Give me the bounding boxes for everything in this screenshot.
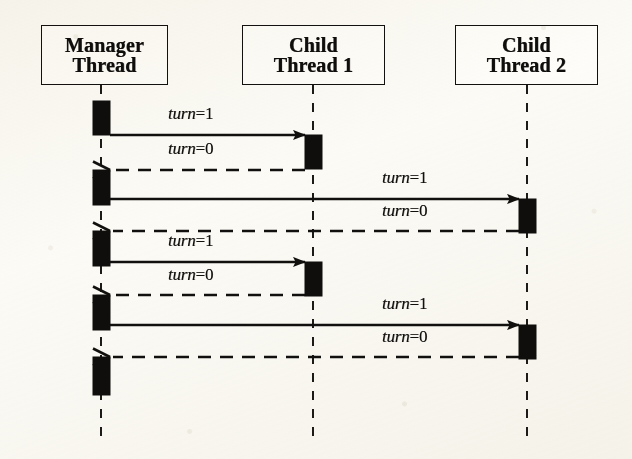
activation-bar-child2-8[interactable] xyxy=(519,325,536,359)
message-label-2: turn=0 xyxy=(168,139,213,159)
message-label-value: 1 xyxy=(205,104,213,123)
message-label-variable: turn xyxy=(168,104,196,123)
lifeline-header-child1[interactable]: ChildThread 1 xyxy=(242,25,385,85)
activation-bar-manager-4[interactable] xyxy=(93,357,110,395)
message-label-variable: turn xyxy=(382,168,410,187)
message-label-operator: = xyxy=(410,201,419,220)
message-label-value: 0 xyxy=(419,327,427,346)
activation-bar-manager-3[interactable] xyxy=(93,295,110,330)
message-label-operator: = xyxy=(196,231,205,250)
message-label-variable: turn xyxy=(382,201,410,220)
message-label-value: 1 xyxy=(419,294,427,313)
message-label-variable: turn xyxy=(168,139,196,158)
message-label-3: turn=1 xyxy=(382,168,427,188)
message-label-value: 1 xyxy=(419,168,427,187)
message-label-6: turn=0 xyxy=(168,265,213,285)
lifeline-header-manager[interactable]: ManagerThread xyxy=(41,25,168,85)
activation-bar-child1-6[interactable] xyxy=(305,262,322,296)
messages-group xyxy=(93,135,519,366)
message-label-value: 0 xyxy=(205,265,213,284)
activations-group xyxy=(93,101,536,395)
lifeline-header-line: Child xyxy=(502,35,551,55)
message-label-operator: = xyxy=(410,168,419,187)
message-label-operator: = xyxy=(196,104,205,123)
activation-bar-child1-5[interactable] xyxy=(305,135,322,169)
lifeline-header-line: Thread xyxy=(72,55,136,75)
activation-bar-child2-7[interactable] xyxy=(519,199,536,233)
message-label-variable: turn xyxy=(168,231,196,250)
message-label-operator: = xyxy=(410,327,419,346)
message-label-variable: turn xyxy=(382,327,410,346)
message-label-operator: = xyxy=(196,139,205,158)
activation-bar-manager-0[interactable] xyxy=(93,101,110,135)
sequence-diagram-canvas: ManagerThreadChildThread 1ChildThread 2 … xyxy=(0,0,632,459)
message-label-value: 0 xyxy=(205,139,213,158)
message-label-1: turn=1 xyxy=(168,104,213,124)
message-label-4: turn=0 xyxy=(382,201,427,221)
message-label-variable: turn xyxy=(382,294,410,313)
message-label-7: turn=1 xyxy=(382,294,427,314)
message-label-value: 0 xyxy=(419,201,427,220)
lifeline-header-line: Thread 2 xyxy=(487,55,567,75)
message-label-operator: = xyxy=(410,294,419,313)
message-label-operator: = xyxy=(196,265,205,284)
activation-bar-manager-1[interactable] xyxy=(93,170,110,205)
lifeline-header-child2[interactable]: ChildThread 2 xyxy=(455,25,598,85)
message-label-8: turn=0 xyxy=(382,327,427,347)
lifeline-header-line: Child xyxy=(289,35,338,55)
lifeline-header-line: Manager xyxy=(65,35,144,55)
message-label-5: turn=1 xyxy=(168,231,213,251)
activation-bar-manager-2[interactable] xyxy=(93,231,110,266)
lifeline-header-line: Thread 1 xyxy=(274,55,354,75)
message-label-value: 1 xyxy=(205,231,213,250)
message-label-variable: turn xyxy=(168,265,196,284)
